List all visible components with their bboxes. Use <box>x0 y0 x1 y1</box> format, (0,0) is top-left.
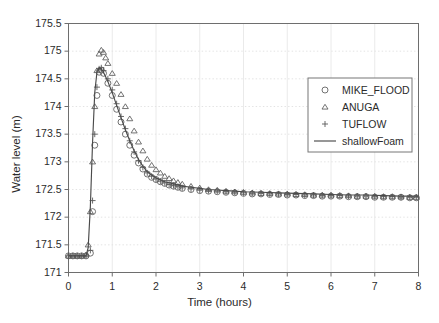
x-tick-label: 6 <box>317 280 345 292</box>
water-level-chart: Water level (m) Time (hours) 171171.5172… <box>0 0 439 323</box>
y-tick-label: 175.5 <box>8 17 62 29</box>
y-tick-label: 172 <box>8 210 62 222</box>
marker-triangle <box>131 128 137 133</box>
legend-label: shallowFoam <box>342 135 404 147</box>
x-tick-label: 3 <box>186 280 214 292</box>
x-tick-label: 2 <box>142 280 170 292</box>
y-tick-label: 173.5 <box>8 127 62 139</box>
y-tick-label: 174 <box>8 100 62 112</box>
marker-triangle <box>149 162 155 167</box>
x-tick-label: 8 <box>405 280 433 292</box>
y-tick-label: 175 <box>8 44 62 56</box>
y-tick-label: 171.5 <box>8 238 62 250</box>
y-tick-label: 172.5 <box>8 183 62 195</box>
x-tick-label: 7 <box>361 280 389 292</box>
y-tick-label: 174.5 <box>8 72 62 84</box>
marker-triangle <box>136 139 142 144</box>
x-tick-label: 4 <box>230 280 258 292</box>
plot-canvas: MIKE_FLOODANUGATUFLOWshallowFoam <box>0 0 439 323</box>
y-tick-label: 171 <box>8 266 62 278</box>
legend-label: ANUGA <box>342 101 379 113</box>
legend-label: TUFLOW <box>342 118 386 130</box>
x-tick-label: 0 <box>55 280 83 292</box>
marker-triangle <box>105 61 111 66</box>
marker-triangle <box>127 116 133 121</box>
y-tick-label: 173 <box>8 155 62 167</box>
x-tick-label: 1 <box>98 280 126 292</box>
marker-triangle <box>140 148 146 153</box>
chart-legend: MIKE_FLOODANUGATUFLOWshallowFoam <box>308 78 412 152</box>
marker-triangle <box>144 156 150 161</box>
legend-label: MIKE_FLOOD <box>342 84 410 96</box>
marker-triangle <box>103 55 109 60</box>
marker-triangle <box>118 92 124 97</box>
marker-triangle <box>114 81 120 86</box>
x-axis-title: Time (hours) <box>0 296 439 308</box>
x-tick-label: 5 <box>273 280 301 292</box>
